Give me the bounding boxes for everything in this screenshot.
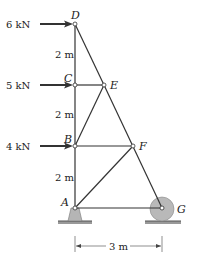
spacing-label-dc: 2 m [55,49,75,60]
member-eb [75,85,104,146]
joint-a [73,206,77,210]
joint-e [102,83,106,87]
node-label-e: E [109,79,118,92]
joint-d [73,22,77,26]
ground-right [145,221,181,224]
spacing-label-cb: 2 m [55,109,75,120]
joint-g [160,206,164,210]
joint-f [131,144,135,148]
member-af [75,146,133,208]
node-label-f: F [138,140,147,153]
node-label-a: A [60,196,69,209]
load-arrows [40,21,73,150]
load-label-c: 5 kN [6,80,31,91]
node-label-g: G [177,203,186,216]
truss-members [75,24,162,208]
truss-diagram: 6 kN 5 kN 4 kN 2 m 2 m 2 m D C E B F A G… [0,0,197,262]
load-label-d: 6 kN [6,19,31,30]
node-label-d: D [70,9,80,22]
spacing-label-ba: 2 m [55,172,75,183]
joint-b [73,144,77,148]
ground-left [58,221,92,224]
node-label-b: B [63,133,72,146]
member-de [75,24,104,85]
dimension-label-ag: 3 m [109,241,129,252]
load-label-b: 4 kN [6,141,31,152]
joint-c [73,83,77,87]
node-label-c: C [64,72,73,85]
